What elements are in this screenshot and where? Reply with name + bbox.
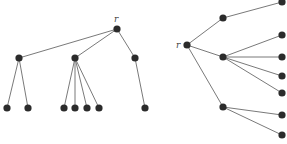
tree-edge bbox=[223, 57, 282, 76]
tree-edge bbox=[223, 35, 282, 57]
tree-edge bbox=[64, 58, 75, 108]
tree-node bbox=[278, 111, 285, 118]
nodes bbox=[3, 25, 148, 111]
tree-node bbox=[278, 53, 285, 60]
tree-edge bbox=[75, 58, 87, 108]
tree-node bbox=[60, 104, 67, 111]
root-node bbox=[113, 25, 120, 32]
tree-edge bbox=[187, 45, 223, 107]
tree-node bbox=[278, 131, 285, 138]
tree-edge bbox=[19, 29, 117, 58]
top-down-tree: r bbox=[3, 14, 148, 112]
tree-node bbox=[219, 53, 226, 60]
tree-node bbox=[278, 89, 285, 96]
root-label: r bbox=[114, 14, 119, 24]
tree-edge bbox=[187, 18, 223, 45]
tree-edge bbox=[7, 58, 19, 108]
tree-node bbox=[141, 104, 148, 111]
nodes bbox=[183, 0, 285, 139]
tree-node bbox=[278, 72, 285, 79]
tree-node bbox=[83, 104, 90, 111]
tree-node bbox=[95, 104, 102, 111]
tree-node bbox=[71, 104, 78, 111]
tree-edge bbox=[223, 57, 282, 93]
edges bbox=[7, 29, 145, 108]
tree-node bbox=[278, 31, 285, 38]
tree-diagram: r r bbox=[0, 0, 287, 144]
tree-node bbox=[219, 14, 226, 21]
tree-edge bbox=[135, 58, 145, 108]
tree-node bbox=[219, 103, 226, 110]
tree-edge bbox=[187, 45, 223, 57]
tree-edge bbox=[75, 29, 117, 58]
tree-node bbox=[3, 104, 10, 111]
tree-edge bbox=[19, 58, 28, 108]
left-right-tree: r bbox=[176, 0, 286, 139]
tree-node bbox=[278, 0, 285, 6]
tree-node bbox=[131, 54, 138, 61]
tree-edge bbox=[223, 2, 282, 18]
root-node bbox=[183, 41, 190, 48]
tree-node bbox=[15, 54, 22, 61]
edges bbox=[187, 2, 282, 135]
tree-edge bbox=[75, 58, 99, 108]
tree-node bbox=[71, 54, 78, 61]
root-label: r bbox=[176, 40, 181, 50]
tree-node bbox=[24, 104, 31, 111]
tree-edge bbox=[117, 29, 135, 58]
